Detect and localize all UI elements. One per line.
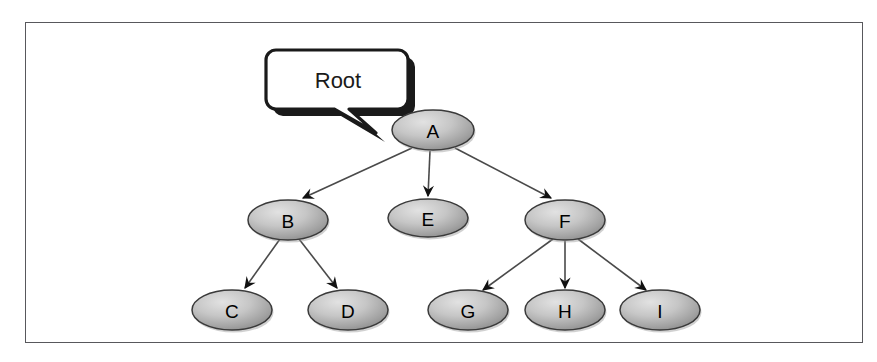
edge-b-c xyxy=(245,239,280,288)
node-label: A xyxy=(427,121,440,142)
edge-a-b xyxy=(303,148,412,198)
nodes-layer: ABEFCDGHI xyxy=(192,110,702,333)
callout-label: Root xyxy=(315,68,361,93)
node-c[interactable]: C xyxy=(192,290,274,333)
node-label: D xyxy=(341,301,355,322)
node-label: E xyxy=(422,209,435,230)
node-label: B xyxy=(282,211,295,232)
node-label: G xyxy=(461,301,476,322)
node-label: C xyxy=(225,301,239,322)
node-i[interactable]: I xyxy=(620,290,702,333)
figure-canvas: Root ABEFCDGHI xyxy=(0,0,877,362)
edge-f-i xyxy=(578,239,646,290)
node-b[interactable]: B xyxy=(248,200,330,243)
node-h[interactable]: H xyxy=(525,290,607,333)
edge-b-d xyxy=(299,239,337,288)
node-a[interactable]: A xyxy=(392,110,476,153)
node-label: F xyxy=(559,211,571,232)
node-label: H xyxy=(558,301,572,322)
node-g[interactable]: G xyxy=(428,290,510,333)
edge-a-f xyxy=(455,148,551,198)
node-label: I xyxy=(657,301,662,322)
node-e[interactable]: E xyxy=(388,199,470,240)
node-d[interactable]: D xyxy=(308,290,390,333)
tree-diagram: Root ABEFCDGHI xyxy=(0,0,877,362)
edge-f-g xyxy=(483,239,553,290)
node-f[interactable]: F xyxy=(525,200,607,243)
edge-a-e xyxy=(428,151,430,196)
